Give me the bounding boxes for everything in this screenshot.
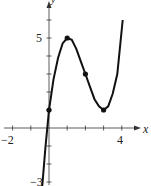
y-tick-label-neg3: −3 [30,176,43,186]
x-axis-label: x [143,123,148,135]
x-tick-label-neg2: −2 [1,134,14,146]
y-axis-label: y [51,0,55,6]
function-curve [42,20,123,186]
plot-area [0,0,151,186]
axes [4,1,141,185]
x-tick-label-4: 4 [117,134,123,146]
y-tick-label-5: 5 [36,32,42,44]
